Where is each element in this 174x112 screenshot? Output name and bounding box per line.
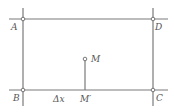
label-c: C [156,93,163,103]
point-c [151,88,155,92]
point-b [21,88,25,92]
label-m: M [90,54,101,64]
label-d: D [154,22,162,32]
point-d [151,17,155,21]
point-m [83,57,87,61]
label-m-prime: M′ [79,94,91,104]
label-delta-x: Δx [52,94,65,104]
label-b: B [12,93,20,103]
rectangle-diagram: A D B C M M′ Δx [0,0,174,112]
label-a: A [10,22,18,32]
point-a [21,17,25,21]
